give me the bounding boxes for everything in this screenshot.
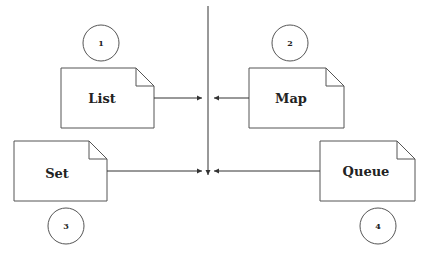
node-queue: Queue 4	[320, 141, 415, 244]
node-number: 4	[375, 221, 381, 231]
node-label: List	[88, 91, 115, 106]
node-number: 3	[63, 221, 69, 231]
node-label: Set	[45, 166, 69, 181]
collections-diagram: 1 List 2 Map Set 3 Queue 4	[0, 0, 423, 255]
node-set: Set 3	[14, 141, 107, 244]
node-label: Map	[275, 91, 307, 106]
node-label: Queue	[343, 164, 390, 179]
node-map: 2 Map	[249, 25, 344, 128]
node-number: 2	[287, 38, 293, 48]
node-list: 1 List	[61, 25, 154, 128]
node-number: 1	[98, 38, 104, 48]
